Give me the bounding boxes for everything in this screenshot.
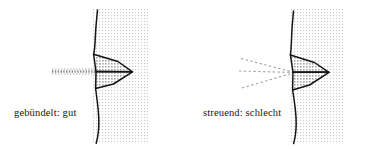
figure-root: gebündelt: gut	[0, 0, 377, 149]
sound-ray-diverging-icon	[239, 59, 295, 89]
caption-focused: gebündelt: gut	[14, 106, 76, 120]
panel-focused: gebündelt: gut	[0, 0, 188, 149]
ray-middle	[239, 71, 295, 73]
sound-ray-parallel-icon	[52, 69, 99, 74]
panel-scattered: streuend: schlecht	[189, 0, 377, 149]
caption-scattered: streuend: schlecht	[203, 106, 281, 120]
scattered-diagram	[189, 0, 377, 149]
ray-lower	[242, 73, 295, 89]
focused-diagram	[0, 0, 188, 149]
ray-upper	[241, 59, 295, 73]
